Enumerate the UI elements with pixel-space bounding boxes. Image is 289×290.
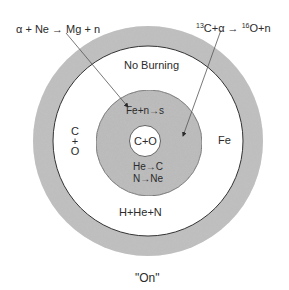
label-o: O — [70, 146, 80, 156]
label-c-o-stack: C + O — [70, 126, 80, 156]
label-core: C+O — [134, 135, 157, 147]
caption-on: "On" — [135, 272, 160, 284]
reaction-alpha-ne: α + Ne → Mg + n — [16, 23, 100, 35]
reaction-c13-part1: C+α → — [204, 22, 242, 34]
reaction-c13-alpha: 13C+α → 16O+n — [196, 22, 271, 34]
label-he-c: He→C — [133, 161, 163, 173]
label-fe: Fe — [218, 134, 231, 146]
reaction-c13-part2: O+n — [249, 22, 270, 34]
label-h-he-n: H+He+N — [119, 206, 162, 218]
label-no-burning: No Burning — [124, 59, 179, 71]
label-fe-n-s: Fe+n→s — [126, 105, 164, 117]
c13-mass-number: 13 — [196, 22, 204, 29]
label-n-ne: N→Ne — [133, 173, 163, 185]
